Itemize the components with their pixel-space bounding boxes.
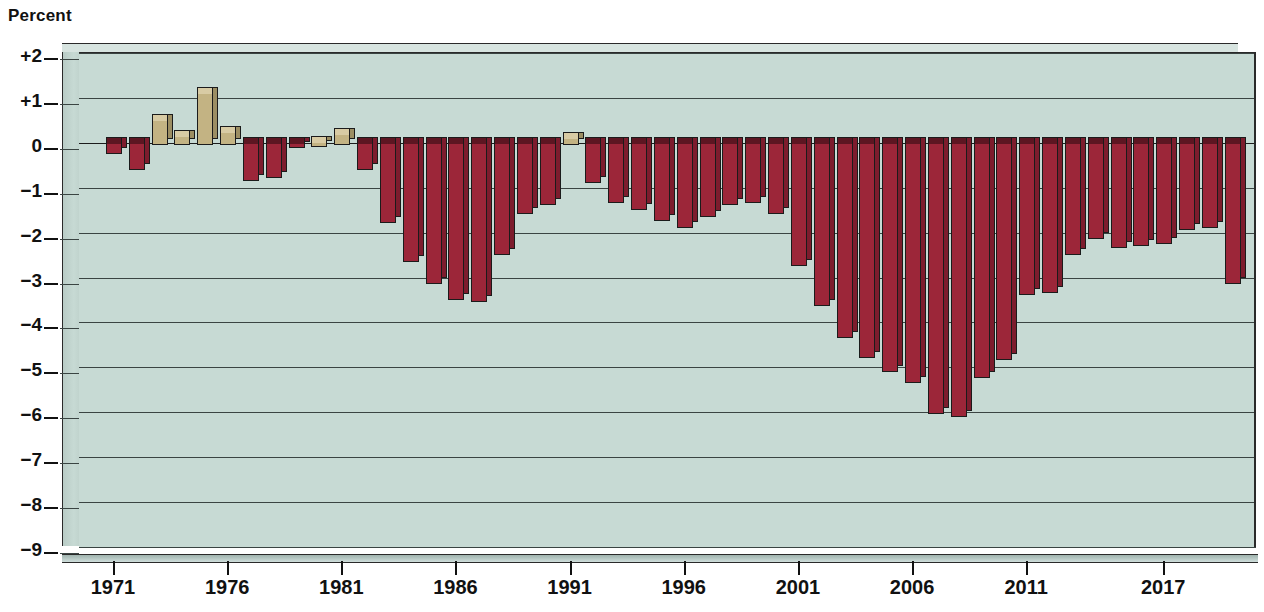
bar-2006 <box>905 143 919 381</box>
bar-face <box>608 143 624 203</box>
bar-1978 <box>266 143 280 177</box>
bar-1979 <box>289 143 303 146</box>
bar-top <box>608 137 624 144</box>
bar-1991 <box>563 138 577 142</box>
bar-top <box>814 137 830 144</box>
bar-2015 <box>1111 143 1125 246</box>
x-axis-tick <box>341 561 343 575</box>
bar-1992 <box>585 143 599 181</box>
x-axis-tick-label: 1976 <box>205 576 250 599</box>
y-axis-tick <box>44 148 58 150</box>
y-axis-tick <box>44 283 58 285</box>
bar-face <box>380 143 396 224</box>
gridline <box>79 322 1256 323</box>
bar-1982 <box>357 143 371 168</box>
bar-top <box>882 137 898 144</box>
bar-face <box>448 143 464 300</box>
y-axis-tick <box>44 238 58 240</box>
bar-face <box>814 143 830 307</box>
bar-face <box>1179 143 1195 230</box>
y-axis-tick <box>44 507 58 509</box>
bar-top <box>1019 137 1035 144</box>
y-axis-tick-label: +2 <box>0 45 42 67</box>
bar-1974 <box>174 136 188 143</box>
plot-area <box>62 52 1256 554</box>
x-axis-tick <box>227 561 229 575</box>
bar-2020 <box>1225 143 1239 282</box>
gridline <box>79 53 1256 54</box>
gridline <box>79 98 1256 99</box>
bar-top <box>152 114 168 121</box>
bar-2012 <box>1042 143 1056 291</box>
bar-2013 <box>1065 143 1079 253</box>
bar-1994 <box>631 143 645 208</box>
y-axis-tick-label: −7 <box>0 449 42 471</box>
bar-top <box>311 136 327 143</box>
y-axis-tick-label: −1 <box>0 180 42 202</box>
bar-top <box>471 137 487 144</box>
bar-top <box>334 128 350 135</box>
bar-top <box>220 126 236 133</box>
y-axis-tick <box>44 327 58 329</box>
bar-2011 <box>1019 143 1033 293</box>
gridline-depth-edge <box>60 59 79 60</box>
bar-face <box>1042 143 1058 293</box>
bar-top <box>791 137 807 144</box>
gridline-depth-edge <box>60 463 79 464</box>
bar-face <box>631 143 647 210</box>
y-axis-tick-label: +1 <box>0 90 42 112</box>
x-axis-tick-label: 2011 <box>1004 576 1047 599</box>
bar-face <box>334 134 350 145</box>
bar-top <box>1179 137 1195 144</box>
gridline-depth-edge <box>60 104 79 105</box>
x-axis-tick <box>684 561 686 575</box>
bar-top <box>1042 137 1058 144</box>
bar-face <box>585 143 601 183</box>
bar-top <box>494 137 510 144</box>
y-axis-tick-label: −3 <box>0 270 42 292</box>
bar-face <box>677 143 693 228</box>
bar-face <box>403 143 419 262</box>
bar-2008 <box>951 143 965 415</box>
x-axis-tick <box>113 561 115 575</box>
gridline-depth-edge <box>60 194 79 195</box>
x-axis-tick-label: 2006 <box>890 576 935 599</box>
bar-face <box>494 143 510 255</box>
bar-top <box>1133 137 1149 144</box>
y-axis-tick <box>44 417 58 419</box>
bar-top <box>996 137 1012 144</box>
y-axis-tick-label: −8 <box>0 494 42 516</box>
bar-2014 <box>1088 143 1102 237</box>
bar-face <box>654 143 670 221</box>
bar-face <box>1156 143 1172 244</box>
bar-1980 <box>311 142 325 145</box>
x-axis-tick-label: 2001 <box>776 576 821 599</box>
bar-face <box>1225 143 1241 284</box>
bar-1976 <box>220 132 234 143</box>
bar-face <box>837 143 853 338</box>
bar-top <box>517 137 533 144</box>
bar-face <box>905 143 921 383</box>
bar-face <box>996 143 1012 361</box>
bar-1971 <box>106 143 120 152</box>
bar-top <box>1065 137 1081 144</box>
y-axis-tick-label: 0 <box>0 135 42 157</box>
bar-face <box>951 143 967 417</box>
gridline <box>79 278 1256 279</box>
gridline-depth-edge <box>60 328 79 329</box>
bar-2000 <box>768 143 782 213</box>
gridline-depth-edge <box>60 508 79 509</box>
bar-top <box>426 137 442 144</box>
x-axis-tick-label: 1981 <box>319 576 364 599</box>
bar-top <box>174 130 190 137</box>
y-axis-tick <box>44 103 58 105</box>
bar-top <box>1202 137 1218 144</box>
x-axis-tick <box>1026 561 1028 575</box>
bar-face <box>540 143 556 206</box>
bar-1995 <box>654 143 668 219</box>
bar-top <box>905 137 921 144</box>
bar-face <box>700 143 716 217</box>
bar-face <box>1133 143 1149 246</box>
bar-face <box>426 143 442 284</box>
bar-top <box>1225 137 1241 144</box>
